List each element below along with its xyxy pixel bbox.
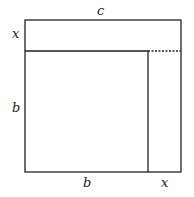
square-diagram: c x b b x: [0, 0, 194, 197]
label-bottom-b: b: [83, 175, 91, 190]
outer-square: [25, 20, 181, 172]
label-left-x: x: [12, 26, 20, 41]
label-bottom-x: x: [161, 175, 169, 190]
label-top-c: c: [97, 3, 105, 18]
label-left-b: b: [12, 100, 20, 115]
